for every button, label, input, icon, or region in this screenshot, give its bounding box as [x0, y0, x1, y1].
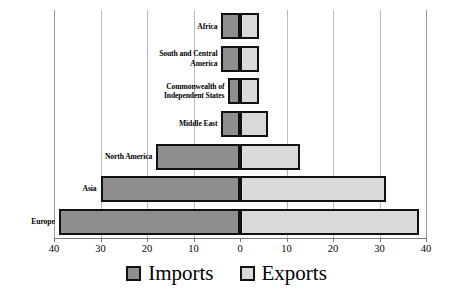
- x-tick-label: 20: [142, 243, 153, 254]
- x-tick-label: 30: [95, 243, 106, 254]
- chart-legend: Imports Exports: [0, 263, 453, 284]
- category-label: Europe: [31, 217, 54, 227]
- x-tick-label: 10: [281, 243, 292, 254]
- bar-exports: [240, 209, 419, 235]
- bar-exports: [240, 144, 300, 170]
- bar-imports: [221, 13, 240, 39]
- tick-mark: [101, 238, 102, 242]
- bar-exports: [240, 13, 259, 39]
- tick-mark: [426, 238, 427, 242]
- legend-label-imports: Imports: [148, 263, 213, 284]
- tick-mark: [194, 238, 195, 242]
- x-tick-label: 40: [421, 243, 432, 254]
- bar-imports: [221, 46, 240, 72]
- bar-exports: [240, 46, 259, 72]
- category-label: North America: [105, 152, 152, 162]
- x-tick-label: 20: [328, 243, 339, 254]
- gridline-20-left: [147, 10, 148, 238]
- category-label: Asia: [83, 184, 97, 194]
- tick-mark: [240, 238, 241, 242]
- bar-exports: [240, 78, 259, 104]
- category-label: Commonwealth ofIndependent States: [164, 82, 224, 101]
- x-tick-label: 40: [49, 243, 60, 254]
- bar-exports: [240, 111, 268, 137]
- tick-mark: [333, 238, 334, 242]
- tick-mark: [147, 238, 148, 242]
- legend-label-exports: Exports: [262, 263, 327, 284]
- category-label: South and CentralAmerica: [159, 49, 217, 68]
- bar-imports: [59, 209, 240, 235]
- legend-swatch-imports: [126, 266, 141, 281]
- x-tick-label: 0: [237, 243, 242, 254]
- gridline-40-right: [426, 10, 427, 238]
- x-tick-label: 10: [188, 243, 199, 254]
- tick-mark: [380, 238, 381, 242]
- legend-item-imports: Imports: [126, 263, 213, 284]
- legend-swatch-exports: [240, 266, 255, 281]
- gridline-20-right: [333, 10, 334, 238]
- bar-imports: [156, 144, 240, 170]
- gridline-30-left: [101, 10, 102, 238]
- category-label-line: Independent States: [164, 91, 224, 101]
- bar-imports: [101, 176, 241, 202]
- category-label-line: Asia: [83, 184, 97, 194]
- legend-item-exports: Exports: [240, 263, 327, 284]
- tick-mark: [54, 238, 55, 242]
- category-label-line: South and Central: [159, 49, 217, 59]
- chart-root: 40302010010203040 AfricaSouth and Centra…: [0, 0, 453, 301]
- category-label: Africa: [197, 22, 217, 32]
- gridline-30-right: [380, 10, 381, 238]
- tick-mark: [287, 238, 288, 242]
- category-label-line: Europe: [31, 217, 54, 227]
- x-tick-label: 30: [374, 243, 385, 254]
- category-label: Middle East: [179, 119, 217, 129]
- category-label-line: North America: [105, 152, 152, 162]
- bar-imports: [221, 111, 240, 137]
- bar-exports: [240, 176, 386, 202]
- gridline-40-left: [54, 10, 55, 238]
- category-label-line: Middle East: [179, 119, 217, 129]
- category-label-line: Africa: [197, 22, 217, 32]
- category-label-line: America: [159, 59, 217, 69]
- category-label-line: Commonwealth of: [164, 82, 224, 92]
- gridline-10-right: [287, 10, 288, 238]
- bar-imports: [228, 78, 240, 104]
